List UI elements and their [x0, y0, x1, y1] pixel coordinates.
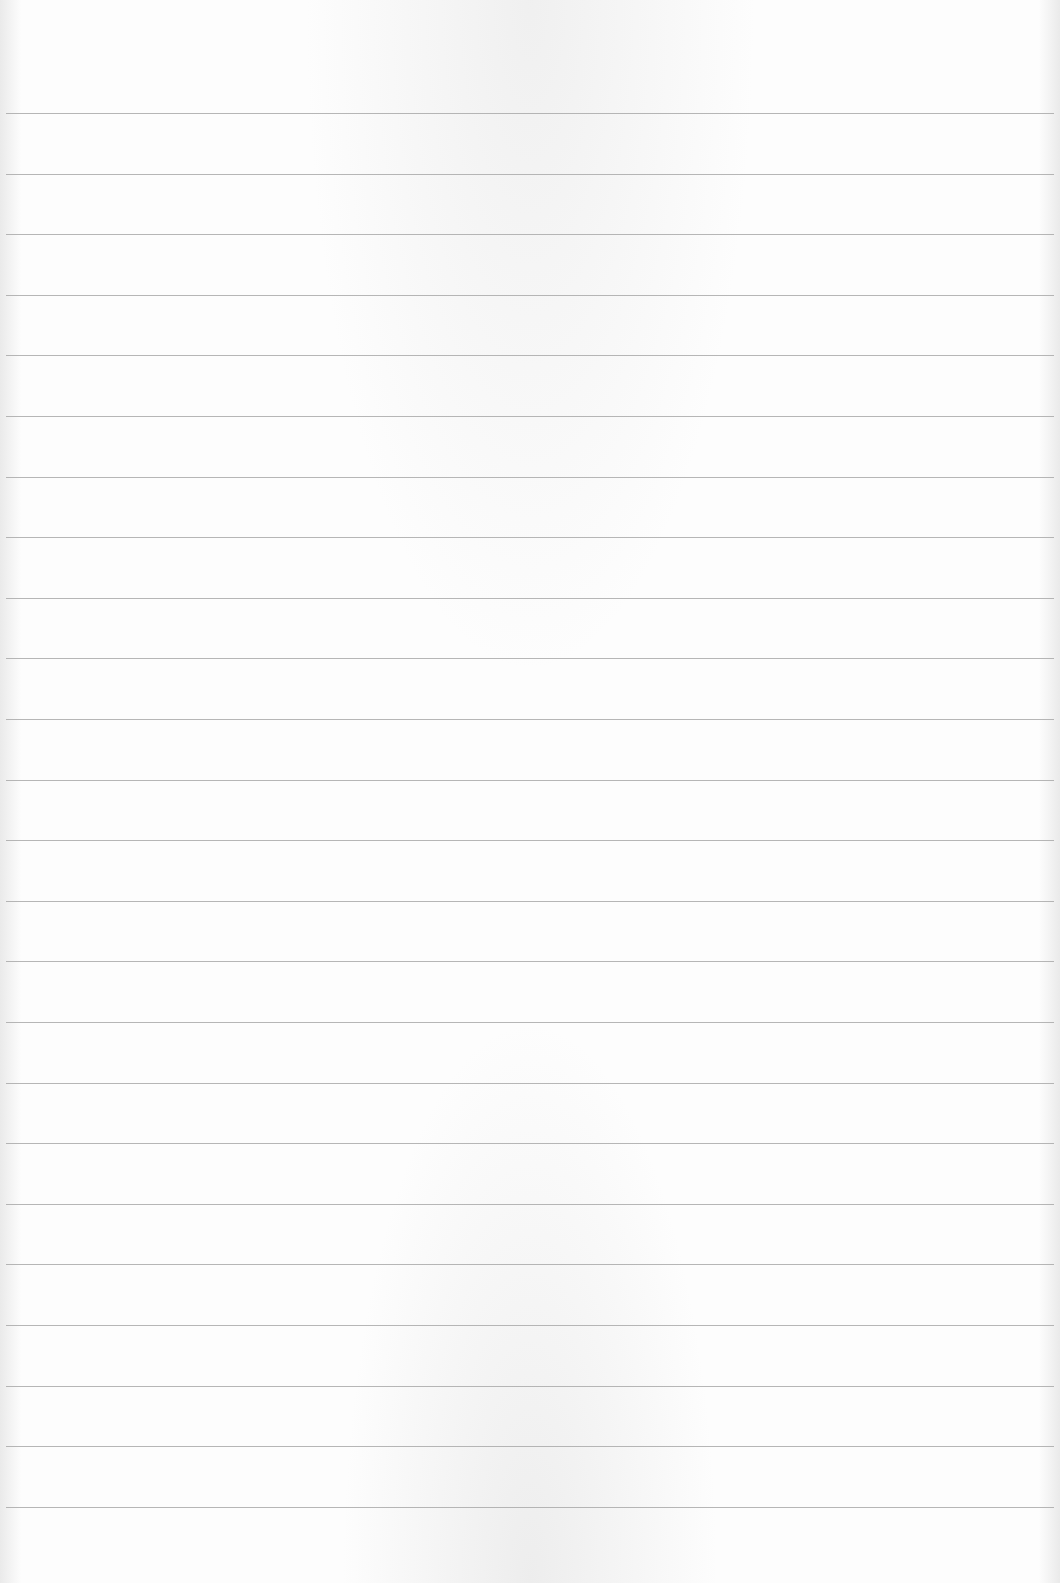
- ruled-line: [6, 355, 1054, 356]
- ruled-line: [6, 1507, 1054, 1508]
- ruled-line: [6, 901, 1054, 902]
- ruled-line: [6, 537, 1054, 538]
- ruled-line: [6, 416, 1054, 417]
- ruled-line: [6, 658, 1054, 659]
- ruled-line: [6, 1264, 1054, 1265]
- ruled-line: [6, 295, 1054, 296]
- ruled-line: [6, 477, 1054, 478]
- ruled-line: [6, 1022, 1054, 1023]
- ruled-line: [6, 1204, 1054, 1205]
- ruled-line: [6, 961, 1054, 962]
- ruled-line: [6, 113, 1054, 114]
- ruled-line: [6, 234, 1054, 235]
- ruled-line: [6, 174, 1054, 175]
- ruled-line: [6, 1325, 1054, 1326]
- ruled-line: [6, 598, 1054, 599]
- ruled-line: [6, 1083, 1054, 1084]
- lined-paper-sheet: [0, 0, 1060, 1583]
- ruled-line: [6, 1446, 1054, 1447]
- ruled-line: [6, 780, 1054, 781]
- ruled-line: [6, 719, 1054, 720]
- ruled-line: [6, 1386, 1054, 1387]
- ruled-line: [6, 1143, 1054, 1144]
- ruled-line: [6, 840, 1054, 841]
